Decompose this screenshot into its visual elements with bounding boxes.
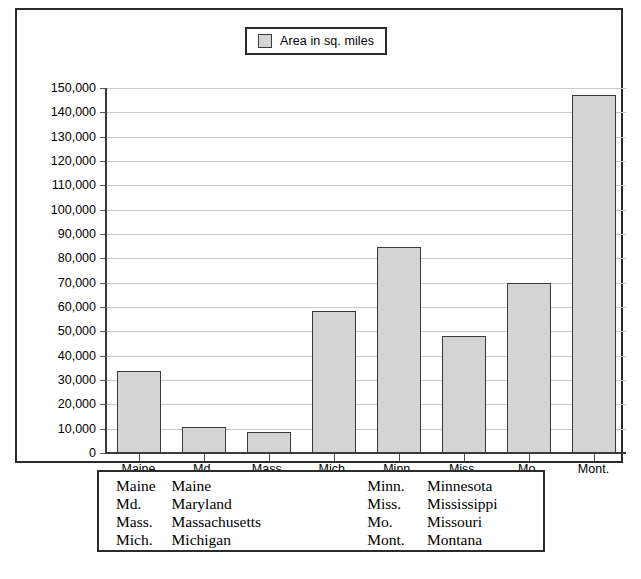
y-tick-label: 100,000 <box>24 203 96 217</box>
gridline <box>106 112 626 113</box>
y-tick-label: 20,000 <box>24 397 96 411</box>
key-row: Mich.MichiganMont.Montana <box>99 531 543 549</box>
key-state-name: Missouri <box>427 513 543 531</box>
plot-area: 010,00020,00030,00040,00050,00060,00070,… <box>106 88 626 453</box>
key-abbreviation: Md. <box>99 495 172 513</box>
y-tick-label: 30,000 <box>24 373 96 387</box>
key-abbreviation: Miss. <box>367 495 427 513</box>
key-state-name: Maryland <box>172 495 368 513</box>
gridline <box>106 185 626 186</box>
y-tick-label: 140,000 <box>24 105 96 119</box>
y-tick-label: 60,000 <box>24 300 96 314</box>
gridline <box>106 234 626 235</box>
bar-miss <box>442 336 486 453</box>
key-state-name: Minnesota <box>427 477 543 495</box>
y-tick-label: 10,000 <box>24 422 96 436</box>
y-tick-label: 70,000 <box>24 276 96 290</box>
y-tick-label: 120,000 <box>24 154 96 168</box>
x-tick-mark <box>334 454 335 461</box>
key-row: Mass.MassachusettsMo.Missouri <box>99 513 543 531</box>
key-row: Md.MarylandMiss.Mississippi <box>99 495 543 513</box>
gridline <box>106 137 626 138</box>
bar-md <box>182 427 226 453</box>
chart-legend: Area in sq. miles <box>245 27 387 55</box>
abbreviation-key: MaineMaineMinn.MinnesotaMd.MarylandMiss.… <box>97 470 545 552</box>
x-tick-label: Mont. <box>578 462 609 476</box>
bar-mass <box>247 432 291 453</box>
bar-mich <box>312 311 356 453</box>
key-state-name: Mississippi <box>427 495 543 513</box>
x-tick-mark <box>594 454 595 461</box>
x-tick-mark <box>269 454 270 461</box>
legend-label: Area in sq. miles <box>280 34 374 48</box>
key-state-name: Massachusetts <box>172 513 368 531</box>
gridline <box>106 258 626 259</box>
gridline <box>106 88 626 89</box>
legend-color-swatch <box>258 34 272 48</box>
key-abbreviation: Mass. <box>99 513 172 531</box>
y-tick-label: 0 <box>24 446 96 460</box>
y-axis-line <box>105 88 107 454</box>
gridline <box>106 210 626 211</box>
y-tick-label: 40,000 <box>24 349 96 363</box>
x-tick-mark <box>139 454 140 461</box>
chart-frame: Area in sq. miles 010,00020,00030,00040,… <box>15 8 623 463</box>
key-row: MaineMaineMinn.Minnesota <box>99 477 543 495</box>
key-abbreviation: Minn. <box>367 477 427 495</box>
x-tick-mark <box>399 454 400 461</box>
key-state-name: Montana <box>427 531 543 549</box>
y-tick-label: 90,000 <box>24 227 96 241</box>
bar-mo <box>507 283 551 453</box>
key-state-name: Michigan <box>172 531 368 549</box>
key-abbreviation: Maine <box>99 477 172 495</box>
y-tick-label: 150,000 <box>24 81 96 95</box>
x-tick-mark <box>464 454 465 461</box>
y-tick-label: 80,000 <box>24 251 96 265</box>
x-tick-mark <box>204 454 205 461</box>
key-abbreviation: Mo. <box>367 513 427 531</box>
gridline <box>106 161 626 162</box>
key-state-name: Maine <box>172 477 368 495</box>
bar-minn <box>377 247 421 453</box>
y-tick-label: 130,000 <box>24 130 96 144</box>
x-tick-mark <box>529 454 530 461</box>
key-abbreviation: Mont. <box>367 531 427 549</box>
bar-mont <box>572 95 616 453</box>
key-abbreviation: Mich. <box>99 531 172 549</box>
y-tick-label: 110,000 <box>24 178 96 192</box>
bar-maine <box>117 371 161 453</box>
y-tick-label: 50,000 <box>24 324 96 338</box>
